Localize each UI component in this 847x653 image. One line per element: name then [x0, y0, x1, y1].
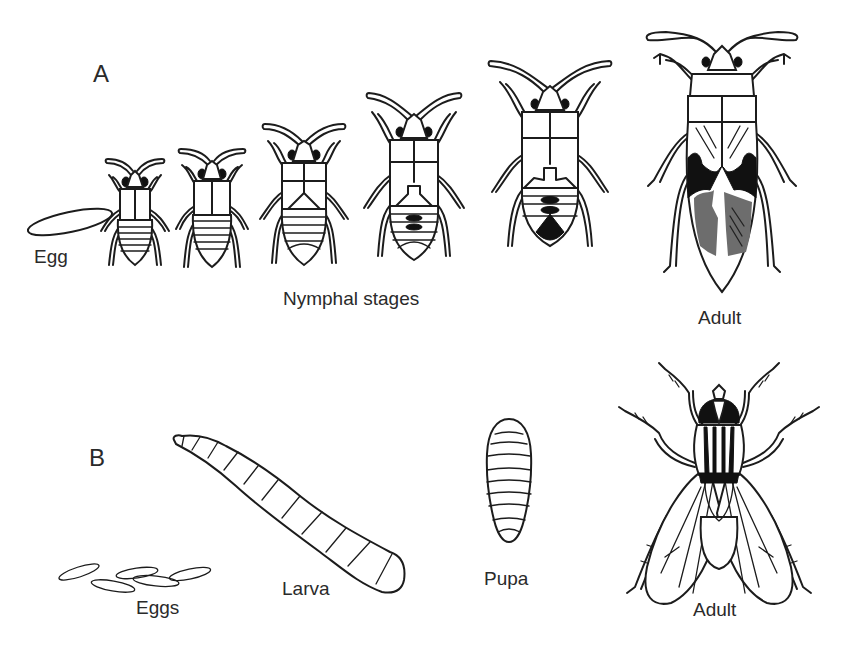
label-pupa: Pupa [484, 568, 528, 590]
eggs-b [57, 561, 211, 595]
label-adult-a: Adult [698, 307, 741, 329]
adult-fly [619, 363, 819, 604]
label-eggs: Eggs [136, 597, 179, 619]
panel-b-letter: B [89, 444, 105, 472]
panel-a-letter: A [93, 60, 109, 88]
nymph-4 [364, 93, 464, 260]
pupa [487, 419, 531, 542]
egg-a [26, 203, 114, 240]
nymph-5 [489, 61, 612, 246]
life-cycle-diagram: A Egg Nymphal stages Adult B Eggs Larva … [0, 0, 847, 653]
nymph-2 [176, 149, 248, 267]
label-larva: Larva [282, 578, 330, 600]
nymph-3 [260, 124, 348, 265]
label-adult-b: Adult [693, 599, 736, 621]
adult-bug [647, 32, 798, 292]
larva [174, 435, 405, 592]
label-egg: Egg [34, 246, 68, 268]
label-nymphal-stages: Nymphal stages [283, 288, 419, 310]
